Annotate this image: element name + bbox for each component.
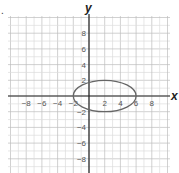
y-tick-label: 4 [82,61,87,70]
y-tick-label: 8 [82,29,87,38]
x-tick-label: 2 [102,99,107,108]
x-tick-label: 8 [150,99,155,108]
y-tick-label: 6 [82,45,87,54]
x-tick-label: −4 [53,99,63,108]
x-tick-label: −8 [22,99,32,108]
y-tick-label: −6 [77,139,87,148]
y-tick-label: −2 [77,108,87,117]
x-tick-label: −6 [37,99,47,108]
coordinate-plane: . x y −8−6−4−22468 8642−2−4−6−8 [0,0,179,173]
y-tick-label: −8 [77,155,87,164]
x-tick-label: 4 [118,99,123,108]
x-axis-label: x [170,89,179,103]
axes: x y [8,1,179,173]
y-tick-label: −4 [77,123,87,132]
y-axis-label: y [84,1,93,15]
problem-marker: . [1,5,4,16]
